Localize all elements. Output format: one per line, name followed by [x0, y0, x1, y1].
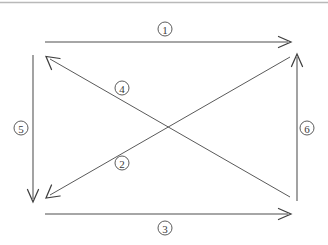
arrow-3-label-text: 3	[162, 223, 168, 235]
arrow-1-label-text: 1	[162, 24, 168, 36]
arrow-2-head-icon	[46, 185, 60, 198]
arrow-4-label-text: 4	[119, 83, 125, 95]
arrow-2-label-text: 2	[119, 158, 125, 170]
arrow-6-label: 6	[300, 121, 314, 135]
arrow-5-label: 5	[14, 121, 28, 135]
arrow-5-group	[28, 55, 39, 202]
arrow-flow-diagram: 1 4 2 3 5 6	[0, 0, 328, 245]
arrow-3-label: 3	[158, 221, 172, 235]
arrow-4-label: 4	[115, 81, 129, 95]
arrow-3-group	[45, 209, 291, 220]
diagram-canvas: 1 4 2 3 5 6	[0, 0, 328, 245]
arrow-2-line	[50, 57, 290, 195]
arrow-6-label-text: 6	[304, 123, 310, 135]
arrow-1-group	[45, 37, 291, 48]
arrow-5-label-text: 5	[18, 123, 24, 135]
arrow-1-label: 1	[158, 22, 172, 36]
arrow-2-label: 2	[115, 156, 129, 170]
arrow-4-line	[50, 59, 290, 197]
